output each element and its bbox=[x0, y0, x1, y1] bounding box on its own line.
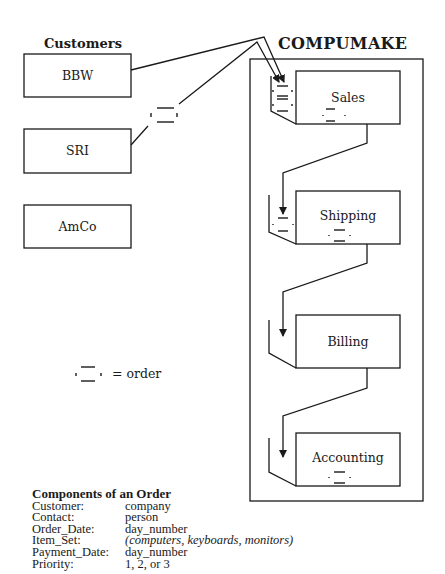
department-label-accounting: Accounting bbox=[296, 450, 400, 465]
accounting-order-icon bbox=[329, 472, 350, 483]
sales-queue-orders-icon bbox=[273, 86, 292, 111]
component-key: Priority: bbox=[32, 559, 125, 571]
customer-label-bbw: BBW bbox=[24, 68, 131, 83]
department-label-billing: Billing bbox=[296, 334, 400, 349]
department-label-sales: Sales bbox=[296, 90, 400, 105]
component-value: 1, 2, or 3 bbox=[125, 559, 170, 571]
shipping-order-icon bbox=[329, 230, 350, 241]
customer-label-amco: AmCo bbox=[24, 219, 131, 234]
customer-label-sri: SRI bbox=[24, 143, 131, 158]
flow-sri-to-sales-a bbox=[131, 126, 148, 145]
compumake-boundary bbox=[250, 59, 423, 501]
flow-sri-to-sales-b bbox=[179, 42, 279, 104]
sales-order-icon bbox=[323, 109, 345, 121]
component-row: Priority: 1, 2, or 3 bbox=[32, 559, 293, 571]
department-label-shipping: Shipping bbox=[296, 208, 400, 223]
shipping-queue-order-icon bbox=[273, 218, 293, 231]
order-icon bbox=[151, 108, 177, 122]
order-components-table: Components of an Order Customer: company… bbox=[32, 488, 293, 570]
sales-queue-tray bbox=[271, 76, 296, 124]
legend-text: = order bbox=[112, 366, 161, 381]
order-components-title: Components of an Order bbox=[32, 488, 293, 500]
company-heading: COMPUMAKE bbox=[278, 34, 407, 53]
legend-order-icon bbox=[76, 367, 101, 381]
customers-heading: Customers bbox=[44, 36, 122, 51]
